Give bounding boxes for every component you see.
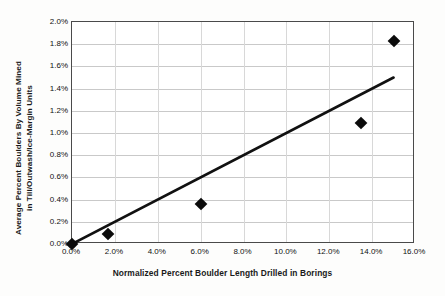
x-axis-tick-label: 8.0%	[233, 247, 251, 256]
x-axis-tick-label: 14.0%	[360, 247, 383, 256]
scatter-chart: Average Percent Boulders By Volume Mined…	[0, 0, 445, 296]
y-axis-tick-label: 1.4%	[30, 83, 68, 92]
x-axis-tick-label: 12.0%	[317, 247, 340, 256]
y-axis-tick-label: 1.6%	[30, 61, 68, 70]
x-axis-tick-label: 2.0%	[105, 247, 123, 256]
y-axis-tick-label: 1.0%	[30, 128, 68, 137]
x-axis-tick-label: 4.0%	[148, 247, 166, 256]
y-axis-tick-label: 0.6%	[30, 172, 68, 181]
y-axis-title-line-1: Average Percent Boulders By Volume Mined	[13, 61, 24, 235]
y-axis-tick-label: 2.0%	[30, 17, 68, 26]
y-axis-tick-label: 1.8%	[30, 39, 68, 48]
y-axis-tick-label: 0.8%	[30, 150, 68, 159]
x-axis-tick-label: 0.0%	[62, 247, 80, 256]
data-point-marker	[102, 228, 115, 241]
x-axis-tick-label: 6.0%	[191, 247, 209, 256]
data-point-marker	[387, 34, 400, 47]
data-point-marker	[355, 117, 368, 130]
data-point-marker	[194, 198, 207, 211]
plot-area	[71, 21, 414, 243]
data-series-layer	[72, 22, 413, 242]
x-axis-tick-label: 16.0%	[403, 247, 426, 256]
y-axis-tick-label: 1.2%	[30, 105, 68, 114]
y-axis-tick-label: 0.2%	[30, 216, 68, 225]
x-axis-title: Normalized Percent Boulder Length Drille…	[0, 268, 445, 278]
y-axis-tick-label: 0.4%	[30, 194, 68, 203]
x-axis-tick-label: 10.0%	[274, 247, 297, 256]
x-axis-tick-labels: 0.0%2.0%4.0%6.0%8.0%10.0%12.0%14.0%16.0%	[0, 247, 445, 261]
